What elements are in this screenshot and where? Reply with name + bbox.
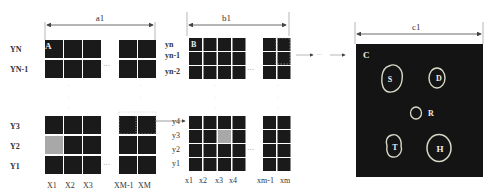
a1-label: a1 (96, 13, 105, 23)
col-label-x3: X3 (83, 181, 93, 190)
grid-cell (189, 116, 202, 129)
row-label-y1: Y1 (10, 162, 20, 171)
grid-cell (204, 116, 217, 129)
grid-cell (278, 116, 291, 129)
panel-a: a1 YN YN-1 A ··· ‘ ‘ ‘ ‘ ‘ Y3 Y2 Y1 ··· … (10, 13, 156, 190)
grid-cell (64, 136, 82, 154)
grid-cell (119, 116, 137, 134)
vdots: ‘ (140, 96, 142, 101)
vdots: ‘ (214, 96, 216, 101)
row-label-yn: YN (10, 45, 22, 54)
col-label-xm-1-b: xm-1 (257, 176, 274, 185)
grid-cell (83, 40, 101, 58)
row-label-yn-2-b: yn-2 (165, 67, 180, 76)
region-d-label: D (436, 74, 442, 83)
panel-c: c1 C S D R T H (355, 22, 483, 177)
grid-cell (138, 40, 156, 58)
panel-a-corner-label: A (45, 41, 52, 51)
grid-cell (263, 144, 276, 157)
grid-cell (64, 60, 82, 78)
grid-cell (233, 38, 246, 51)
grid-cell (83, 116, 101, 134)
grid-cell (138, 60, 156, 78)
grid-cell (233, 116, 246, 129)
grid-cell (138, 136, 156, 154)
grid-cell (218, 38, 231, 51)
grid-cell (45, 60, 63, 78)
region-r-label: R (428, 109, 434, 118)
grid-cell (278, 158, 291, 171)
grid-cell (45, 116, 63, 134)
grid-a-bottom (45, 116, 156, 174)
row-label-y1-b: y1 (172, 159, 180, 168)
vdots: ‘ (68, 106, 70, 111)
grid-cell (189, 130, 202, 143)
region-t-label: T (392, 143, 398, 152)
grid-cell (138, 156, 156, 174)
row-label-y2: Y2 (10, 142, 20, 151)
grid-cell (204, 144, 217, 157)
grid-cell (204, 66, 217, 79)
col-label-x1-b: x1 (185, 176, 193, 185)
grid-b-top (189, 38, 291, 79)
col-label-xm-b: xm (280, 176, 291, 185)
grid-cell (189, 158, 202, 171)
grid-cell (263, 116, 276, 129)
grid-cell (83, 156, 101, 174)
col-label-xm-1: XM-1 (114, 181, 134, 190)
row-label-yn-1-b: yn-1 (165, 51, 180, 60)
col-label-x4-b: x4 (229, 176, 237, 185)
grid-cell (233, 144, 246, 157)
ellipsis-b-bottom: ··· (247, 146, 254, 154)
grid-cell (278, 130, 291, 143)
grid-cell (189, 52, 202, 65)
grid-cell (64, 116, 82, 134)
row-label-y2-b: y2 (172, 145, 180, 154)
col-label-x1: X1 (47, 181, 57, 190)
col-label-x2: X2 (65, 181, 75, 190)
grid-cell (189, 66, 202, 79)
panel-c-corner-label: C (363, 50, 370, 60)
grid-cell (278, 66, 291, 79)
grid-cell (233, 52, 246, 65)
vdots: ‘ (140, 84, 142, 89)
grid-cell (64, 156, 82, 174)
grid-cell (278, 38, 291, 51)
panel-c-image (356, 44, 483, 177)
grid-cell (218, 116, 231, 129)
grid-cell (204, 38, 217, 51)
grid-cell (233, 130, 246, 143)
grid-cell (119, 136, 137, 154)
col-label-x2-b: x2 (199, 176, 207, 185)
grid-cell (204, 52, 217, 65)
grid-cell (263, 52, 276, 65)
panel-b-corner-label: B (191, 40, 197, 49)
grid-cell (83, 136, 101, 154)
row-label-yn-b: yn (165, 40, 174, 49)
grid-cell-highlighted (218, 130, 231, 143)
vdots: ‘ (277, 107, 279, 112)
grid-cell (218, 52, 231, 65)
grid-cell (189, 144, 202, 157)
panel-b: b1 yn yn-1 yn-2 B ··· ‘ ‘ ‘ ‘ ‘ ‘ y4 y3 … (165, 12, 291, 185)
ellipsis-a-bottom: ··· (103, 161, 110, 169)
col-label-x3-b: x3 (215, 176, 223, 185)
grid-cell (204, 130, 217, 143)
grid-cell (263, 130, 276, 143)
vdots: ‘ (214, 84, 216, 89)
row-label-y3: Y3 (10, 122, 20, 131)
grid-cell (263, 158, 276, 171)
grid-cell (218, 158, 231, 171)
connector-ellipsis: ··· (316, 52, 322, 58)
grid-cell-highlighted (45, 136, 63, 154)
vdots: ‘ (277, 84, 279, 89)
row-label-y3-b: y3 (172, 131, 180, 140)
grid-cell (119, 156, 137, 174)
vdots: ‘ (214, 107, 216, 112)
ellipsis-b-top: ··· (247, 66, 254, 74)
grid-a-top (45, 40, 156, 78)
vdots: ‘ (68, 96, 70, 101)
grid-cell (263, 38, 276, 51)
grid-cell (218, 144, 231, 157)
grid-cell (45, 156, 63, 174)
